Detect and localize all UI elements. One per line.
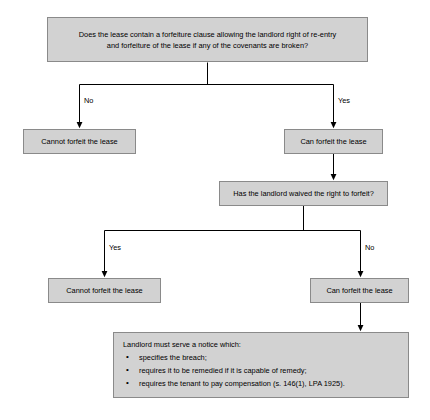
edge-label-q2-no: No — [365, 243, 374, 252]
edge-label-q1-yes: Yes — [338, 96, 350, 105]
node-cannot-forfeit-2: Cannot forfeit the lease — [48, 278, 161, 303]
node-question-waived-right-text: Has the landlord waived the right to for… — [233, 188, 374, 199]
node-can-forfeit-1-text: Can forfeit the lease — [300, 136, 366, 147]
node-notice-requirements-heading: Landlord must serve a notice which: — [123, 339, 399, 350]
edge-label-q1-no: No — [84, 96, 93, 105]
node-cannot-forfeit-1: Cannot forfeit the lease — [23, 129, 136, 154]
node-question-forfeiture-clause-text: Does the lease contain a forfeiture clau… — [79, 29, 337, 51]
list-item: requires it to be remedied if it is capa… — [123, 365, 399, 376]
node-can-forfeit-2-text: Can forfeit the lease — [326, 285, 392, 296]
node-can-forfeit-2: Can forfeit the lease — [310, 278, 409, 303]
list-item: specifies the breach; — [123, 352, 399, 363]
edge-label-q2-yes: Yes — [109, 243, 121, 252]
node-question-waived-right: Has the landlord waived the right to for… — [219, 181, 388, 206]
flowchart-canvas: Does the lease contain a forfeiture clau… — [0, 0, 430, 420]
node-question-forfeiture-clause-line2: and forfeiture of the lease if any of th… — [79, 40, 337, 51]
list-item: requires the tenant to pay compensation … — [123, 378, 399, 389]
node-question-forfeiture-clause-line1: Does the lease contain a forfeiture clau… — [79, 29, 337, 40]
node-cannot-forfeit-1-text: Cannot forfeit the lease — [41, 136, 117, 147]
node-notice-requirements: Landlord must serve a notice which: spec… — [113, 332, 409, 398]
node-question-forfeiture-clause: Does the lease contain a forfeiture clau… — [47, 17, 368, 62]
node-cannot-forfeit-2-text: Cannot forfeit the lease — [66, 285, 142, 296]
notice-requirements-list: specifies the breach; requires it to be … — [123, 352, 399, 389]
node-can-forfeit-1: Can forfeit the lease — [284, 129, 383, 154]
